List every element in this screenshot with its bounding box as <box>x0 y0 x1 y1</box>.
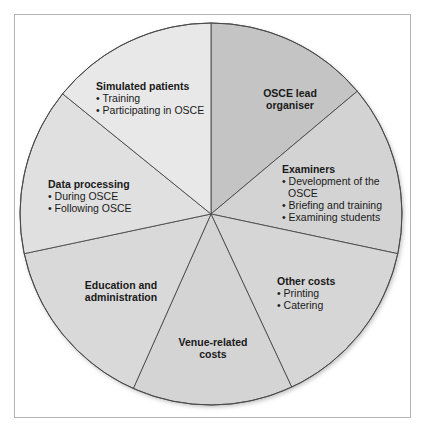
segment-label-simulated: Simulated patients Training Participatin… <box>96 80 204 116</box>
data-item-1: During OSCE <box>48 190 132 202</box>
examiners-item-1-cont: OSCE <box>282 187 382 199</box>
segment-title-venue-line2: costs <box>168 348 258 360</box>
simulated-item-2: Participating in OSCE <box>96 104 204 116</box>
examiners-item-2: Briefing and training <box>282 199 382 211</box>
data-item-2: Following OSCE <box>48 202 132 214</box>
segment-title-other: Other costs <box>277 275 335 287</box>
other-item-2: Catering <box>277 299 335 311</box>
segment-title-venue-line1: Venue-related <box>168 336 258 348</box>
segment-title-education-line1: Education and <box>66 279 176 291</box>
segment-title-education-line2: administration <box>66 291 176 303</box>
examiners-item-3: Examining students <box>282 211 382 223</box>
segment-label-examiners: Examiners Development of the OSCE Briefi… <box>282 163 382 223</box>
simulated-item-1: Training <box>96 92 204 104</box>
examiners-item-1: Development of the <box>282 175 382 187</box>
segment-label-other: Other costs Printing Catering <box>277 275 335 311</box>
segment-label-venue: Venue-related costs <box>168 336 258 360</box>
segment-label-lead: OSCE lead organiser <box>240 87 340 111</box>
other-item-1: Printing <box>277 287 335 299</box>
segment-label-data: Data processing During OSCE Following OS… <box>48 178 132 214</box>
segment-title-simulated: Simulated patients <box>96 80 204 92</box>
segment-title-examiners: Examiners <box>282 163 382 175</box>
segment-label-education: Education and administration <box>66 279 176 303</box>
segment-title-lead-line1: OSCE lead <box>240 87 340 99</box>
segment-title-data: Data processing <box>48 178 132 190</box>
segment-title-lead-line2: organiser <box>240 99 340 111</box>
